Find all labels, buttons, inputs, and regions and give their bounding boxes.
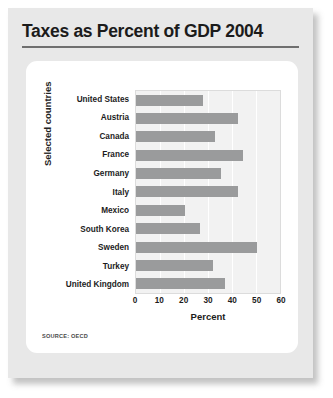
y-axis-tick-label: Austria bbox=[52, 109, 133, 128]
bar-series bbox=[136, 91, 280, 293]
bar-slot bbox=[136, 220, 280, 238]
y-axis-tick-label: Mexico bbox=[52, 201, 133, 220]
source-note: SOURCE: OECD bbox=[42, 333, 88, 339]
bar-slot bbox=[136, 183, 280, 201]
x-axis-tick-label: 30 bbox=[203, 296, 212, 305]
bar bbox=[136, 205, 185, 216]
x-axis-tick-label: 20 bbox=[179, 296, 188, 305]
y-axis-tick-labels: United StatesAustriaCanadaFranceGermanyI… bbox=[52, 90, 133, 294]
bar-slot bbox=[136, 256, 280, 274]
x-axis-tick-label: 40 bbox=[228, 296, 237, 305]
y-axis-tick-label: Turkey bbox=[52, 257, 133, 276]
x-axis-tick-label: 50 bbox=[252, 296, 261, 305]
bar-slot bbox=[136, 164, 280, 182]
bar bbox=[136, 113, 238, 124]
bar bbox=[136, 260, 213, 271]
bar-slot bbox=[136, 146, 280, 164]
x-axis-tick-label: 0 bbox=[133, 296, 138, 305]
bar bbox=[136, 278, 225, 289]
chart-card: Taxes as Percent of GDP 2004 Selected co… bbox=[8, 8, 313, 378]
bar bbox=[136, 95, 203, 106]
bar-slot bbox=[136, 109, 280, 127]
x-axis-tick-label: 10 bbox=[155, 296, 164, 305]
x-axis-tick-label: 60 bbox=[276, 296, 285, 305]
bar-slot bbox=[136, 128, 280, 146]
bar bbox=[136, 150, 243, 161]
title-block: Taxes as Percent of GDP 2004 bbox=[22, 22, 299, 48]
x-axis-tick-labels: 0102030405060 bbox=[135, 296, 281, 309]
x-axis-title: Percent bbox=[135, 311, 281, 322]
bar-slot bbox=[136, 275, 280, 293]
y-axis-tick-label: United Kingdom bbox=[52, 275, 133, 294]
y-axis-tick-label: United States bbox=[52, 90, 133, 109]
y-axis-tick-label: Sweden bbox=[52, 238, 133, 257]
bar bbox=[136, 168, 221, 179]
bar bbox=[136, 186, 238, 197]
bar-slot bbox=[136, 238, 280, 256]
y-axis-tick-label: Canada bbox=[52, 127, 133, 146]
bar-slot bbox=[136, 201, 280, 219]
plot-wrapper: Selected countries United StatesAustriaC… bbox=[26, 61, 298, 353]
plot-area bbox=[135, 90, 281, 294]
chart-panel: Selected countries United StatesAustriaC… bbox=[26, 61, 298, 353]
chart-title: Taxes as Percent of GDP 2004 bbox=[22, 22, 299, 41]
bar-slot bbox=[136, 91, 280, 109]
y-axis-tick-label: France bbox=[52, 146, 133, 165]
y-axis-tick-label: Germany bbox=[52, 164, 133, 183]
y-axis-tick-label: South Korea bbox=[52, 220, 133, 239]
bar bbox=[136, 223, 200, 234]
y-axis-tick-label: Italy bbox=[52, 183, 133, 202]
bar bbox=[136, 131, 215, 142]
bar bbox=[136, 242, 257, 253]
title-divider bbox=[22, 46, 299, 48]
